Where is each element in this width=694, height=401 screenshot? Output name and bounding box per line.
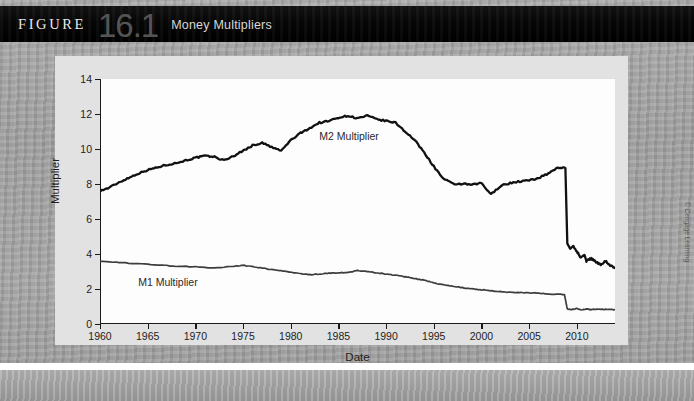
x-tick-label: 2005 <box>509 330 549 342</box>
figure-number: 16.1 <box>98 9 158 42</box>
x-tick-label: 1985 <box>318 330 358 342</box>
x-tick-label: 1990 <box>366 330 406 342</box>
y-tick-label: 0 <box>66 318 92 330</box>
background-white-gap <box>0 363 694 370</box>
x-tick <box>434 324 435 329</box>
x-tick-label: 1995 <box>414 330 454 342</box>
x-tick <box>338 324 339 329</box>
x-tick <box>577 324 578 329</box>
y-tick-label: 4 <box>66 248 92 260</box>
x-tick-label: 2000 <box>461 330 501 342</box>
chart-plot-wrapper: 02468101214 1960196519701975198019851990… <box>100 79 615 324</box>
x-tick <box>386 324 387 329</box>
series-label-m2: M2 Multiplier <box>319 130 379 142</box>
background-bottom-band <box>0 370 694 401</box>
x-tick <box>243 324 244 329</box>
x-tick <box>195 324 196 329</box>
figure-word-label: FIGURE <box>18 16 86 33</box>
y-tick-label: 8 <box>66 178 92 190</box>
y-tick-label: 12 <box>66 108 92 120</box>
x-tick-label: 2010 <box>557 330 597 342</box>
y-tick-label: 2 <box>66 283 92 295</box>
x-tick-label: 1975 <box>223 330 263 342</box>
x-tick <box>100 324 101 329</box>
figure-page: FIGURE 16.1 Money Multipliers 0246810121… <box>0 0 694 401</box>
y-axis-title: Multiplier <box>49 158 61 204</box>
x-tick <box>148 324 149 329</box>
x-tick-label: 1980 <box>271 330 311 342</box>
x-tick-label: 1965 <box>128 330 168 342</box>
y-tick-label: 10 <box>66 143 92 155</box>
x-axis-title: Date <box>100 351 615 363</box>
copyright-credit: © Cengage Learning <box>684 202 691 262</box>
x-tick <box>291 324 292 329</box>
x-tick-label: 1970 <box>175 330 215 342</box>
x-tick <box>529 324 530 329</box>
x-tick-label: 1960 <box>80 330 120 342</box>
figure-header-bar: FIGURE 16.1 Money Multipliers <box>0 6 694 42</box>
y-tick-label: 14 <box>66 73 92 85</box>
figure-title: Money Multipliers <box>171 18 272 32</box>
x-tick <box>481 324 482 329</box>
series-label-m1: M1 Multiplier <box>138 276 198 288</box>
y-tick-label: 6 <box>66 213 92 225</box>
